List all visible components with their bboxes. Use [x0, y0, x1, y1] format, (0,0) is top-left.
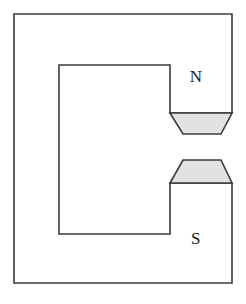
magnet-diagram-svg: N S — [0, 0, 246, 304]
north-pole-label: N — [190, 67, 203, 86]
magnet-diagram-figure: N S — [0, 0, 246, 304]
south-pole-label: S — [191, 229, 201, 248]
